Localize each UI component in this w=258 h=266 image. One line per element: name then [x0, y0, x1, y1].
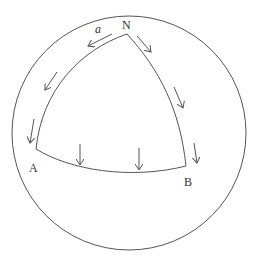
vector-arrow-icon	[174, 87, 183, 108]
vector-arrow-icon	[45, 72, 57, 90]
vertex-label-n: N	[122, 18, 131, 32]
edge-N-B	[127, 34, 186, 166]
sphere-outline	[12, 16, 246, 250]
vector-label: a	[95, 22, 101, 36]
vertex-label-a: A	[29, 161, 38, 175]
vector-arrow-icon	[137, 36, 151, 52]
edge-N-A	[36, 34, 127, 149]
spherical-triangle-diagram: N A B a	[0, 0, 258, 266]
vertex-label-b: B	[184, 175, 192, 189]
vector-arrow-icon	[30, 119, 34, 143]
edge-A-B	[36, 149, 186, 172]
vector-arrow-icon	[194, 143, 197, 163]
triangle-edges	[36, 34, 186, 172]
transported-vectors	[30, 34, 197, 170]
